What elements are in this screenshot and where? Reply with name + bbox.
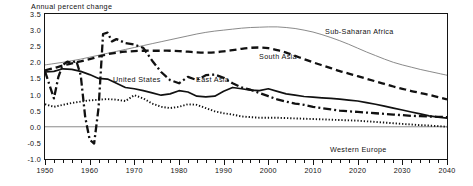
x-tickmark <box>411 160 412 163</box>
x-tickmark <box>304 160 305 163</box>
x-tickmark <box>429 160 430 163</box>
x-tick-label: 2010 <box>304 166 321 175</box>
y-tick-label: 0.0 <box>7 122 41 131</box>
x-tickmark <box>116 160 117 163</box>
x-tickmark <box>313 160 314 165</box>
x-tickmark <box>72 160 73 163</box>
y-tick-label: 2.5 <box>7 42 41 51</box>
x-tickmark <box>143 160 144 163</box>
y-tick-label: 1.5 <box>7 74 41 83</box>
x-tickmark <box>108 160 109 163</box>
y-tick-label: 3.0 <box>7 26 41 35</box>
x-tick-label: 1950 <box>36 166 53 175</box>
x-tickmark <box>125 160 126 163</box>
x-tickmark <box>384 160 385 163</box>
x-tickmark <box>170 160 171 163</box>
y-tick-label: -0.5 <box>7 138 41 147</box>
x-tick-label: 2030 <box>394 166 411 175</box>
series-line-united-states <box>45 69 447 118</box>
x-tick-label: 1960 <box>81 166 98 175</box>
x-tickmark <box>90 160 91 165</box>
y-axis-title: Annual percent change <box>31 2 112 11</box>
series-label-united-states: United States <box>113 75 161 84</box>
x-tickmark <box>99 160 100 163</box>
series-label-western-europe: Western Europe <box>330 145 387 154</box>
x-tick-label: 1990 <box>215 166 232 175</box>
x-tickmark <box>197 160 198 163</box>
x-tickmark <box>224 160 225 165</box>
series-line-western-europe <box>45 95 447 127</box>
x-tick-label: 2000 <box>260 166 277 175</box>
x-tickmark <box>295 160 296 163</box>
x-tickmark <box>268 160 269 165</box>
y-tick-label: 2.0 <box>7 58 41 67</box>
x-tickmark <box>349 160 350 163</box>
x-tickmark <box>331 160 332 163</box>
x-tick-label: 1980 <box>170 166 187 175</box>
x-tickmark <box>63 160 64 163</box>
x-tickmark <box>393 160 394 163</box>
x-tickmark <box>188 160 189 163</box>
x-tickmark <box>250 160 251 163</box>
x-tickmark <box>367 160 368 163</box>
x-tickmark <box>358 160 359 165</box>
x-tick-label: 2040 <box>438 166 455 175</box>
x-tickmark <box>179 160 180 165</box>
y-axis-labels: 3.53.02.52.01.51.00.50.0-0.5-1.0 <box>0 13 41 160</box>
x-tickmark <box>161 160 162 163</box>
x-tickmark <box>277 160 278 163</box>
x-tickmark <box>259 160 260 163</box>
series-line-south-asia <box>45 48 447 100</box>
x-tickmark <box>152 160 153 163</box>
x-tickmark <box>447 160 448 165</box>
x-tickmark <box>438 160 439 163</box>
x-axis-tickmarks <box>44 160 448 165</box>
x-tickmark <box>134 160 135 165</box>
y-tick-label: -1.0 <box>7 155 41 164</box>
series-label-south-asia: South Asia <box>259 52 297 61</box>
x-tickmark <box>402 160 403 165</box>
y-tick-label: 0.5 <box>7 106 41 115</box>
x-tickmark <box>81 160 82 163</box>
x-tickmark <box>322 160 323 163</box>
x-tickmark <box>340 160 341 163</box>
x-tickmark <box>45 160 46 165</box>
x-tickmark <box>286 160 287 163</box>
x-tick-label: 2020 <box>349 166 366 175</box>
x-tickmark <box>242 160 243 163</box>
y-tick-label: 1.0 <box>7 90 41 99</box>
x-tickmark <box>376 160 377 163</box>
x-tickmark <box>54 160 55 163</box>
x-tickmark <box>206 160 207 163</box>
x-axis-labels: 1950196019701980199020002010202020302040 <box>44 166 448 180</box>
x-tick-label: 1970 <box>126 166 143 175</box>
x-tickmark <box>420 160 421 163</box>
series-label-sub-saharan-africa: Sub-Saharan Africa <box>325 27 394 36</box>
x-tickmark <box>233 160 234 163</box>
population-growth-chart: Annual percent change 3.53.02.52.01.51.0… <box>0 0 473 186</box>
y-tick-label: 3.5 <box>7 10 41 19</box>
x-tickmark <box>215 160 216 163</box>
series-label-east-asia: East Asia <box>196 75 229 84</box>
